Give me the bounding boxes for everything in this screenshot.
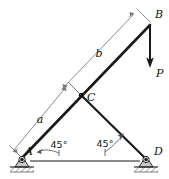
pin-support-A (10, 156, 34, 172)
label-dimension-b: b (95, 47, 102, 60)
label-node-D: D (153, 145, 163, 158)
dimension-a-line (10, 83, 82, 159)
mechanics-figure: B P b C a A D 45° 45° (0, 0, 169, 179)
figure-canvas: B P b C a A D 45° 45° (0, 0, 169, 179)
label-node-A: A (24, 145, 33, 158)
label-dimension-a: a (37, 113, 44, 126)
label-angle-D: 45° (97, 138, 114, 149)
member-AB (22, 25, 150, 158)
label-angle-A: 45° (51, 139, 68, 150)
dimension-b-line (62, 10, 150, 96)
load-arrow-P (146, 24, 154, 68)
label-node-B: B (154, 8, 163, 21)
label-node-C: C (87, 91, 96, 104)
label-load-P: P (155, 67, 164, 80)
pin-support-D (134, 156, 158, 172)
